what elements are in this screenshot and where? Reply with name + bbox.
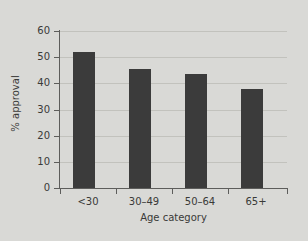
x-tick-mark-0 — [60, 188, 61, 194]
y-tick-label-10: 10 — [26, 157, 50, 167]
bar-age-50-64 — [185, 74, 207, 188]
plot-area — [60, 31, 287, 188]
x-tick-mark-1 — [116, 188, 117, 194]
y-tick-label-50: 50 — [26, 52, 50, 62]
bar-age-30-49 — [129, 69, 151, 188]
gridline-60 — [60, 31, 287, 32]
y-tick-label-20: 20 — [26, 131, 50, 141]
x-tick-mark-2 — [172, 188, 173, 194]
x-tick-label-under-30: <30 — [60, 196, 116, 208]
x-tick-label-30-49: 30–49 — [116, 196, 172, 208]
bar-age-under-30 — [73, 52, 95, 188]
y-tick-label-30: 30 — [26, 105, 50, 115]
x-tick-label-50-64: 50–64 — [172, 196, 228, 208]
y-axis-title: % approval — [10, 59, 21, 149]
x-tick-mark-4 — [287, 188, 288, 194]
x-axis-title: Age category — [60, 212, 287, 223]
y-tick-label-0: 0 — [26, 183, 50, 193]
x-tick-mark-3 — [228, 188, 229, 194]
y-tick-label-60: 60 — [26, 26, 50, 36]
x-axis-line — [59, 188, 288, 189]
y-tick-label-40: 40 — [26, 78, 50, 88]
y-axis-tick-labels: 60 50 40 30 20 10 0 — [20, 0, 50, 241]
bar-age-65-plus — [241, 89, 263, 188]
bar-chart: % approval 60 50 40 30 20 10 0 <30 30–4 — [0, 0, 308, 241]
x-tick-label-65-plus: 65+ — [228, 196, 284, 208]
